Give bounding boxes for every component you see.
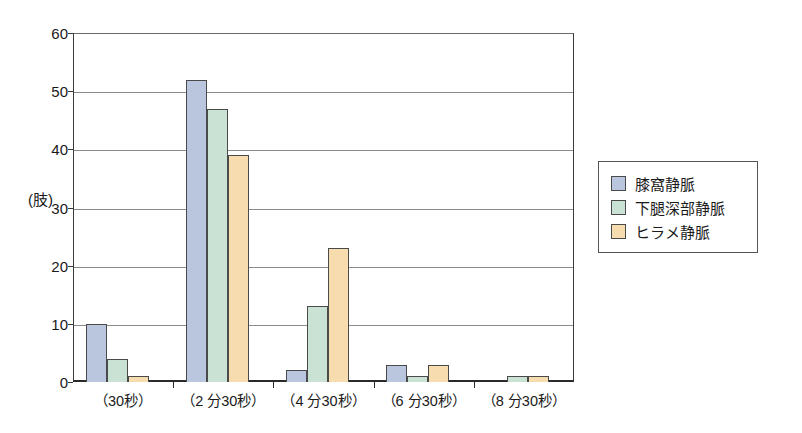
- y-axis-tick-label: 50: [51, 83, 68, 100]
- y-axis-tick-mark: [68, 208, 73, 209]
- bar: [407, 376, 428, 382]
- bar-chart: (肢) 0102030405060 （30秒）（2 分30秒）（4 分30秒）（…: [0, 0, 802, 433]
- bar: [328, 248, 349, 382]
- legend: 膝窩静脈下腿深部静脈ヒラメ静脈: [598, 161, 758, 253]
- x-axis-tick-mark: [474, 382, 475, 388]
- bar: [128, 376, 149, 382]
- legend-item: ヒラメ静脈: [611, 219, 747, 243]
- bar: [307, 306, 328, 382]
- x-axis-tick-mark: [173, 382, 174, 388]
- legend-label: 膝窩静脈: [635, 173, 695, 194]
- legend-swatch: [611, 176, 626, 191]
- legend-item: 膝窩静脈: [611, 171, 747, 195]
- y-axis-ticks: 0102030405060: [40, 33, 68, 382]
- bar: [507, 376, 528, 382]
- bar: [386, 365, 407, 382]
- y-axis-tick-mark: [68, 91, 73, 92]
- y-axis-tick-label: 0: [60, 374, 68, 391]
- legend-item: 下腿深部静脈: [611, 195, 747, 219]
- bar-group: [186, 33, 249, 382]
- bar: [428, 365, 449, 382]
- bar-group: [286, 33, 349, 382]
- y-axis-tick-mark: [68, 149, 73, 150]
- bar-group: [86, 33, 149, 382]
- y-axis-tick-mark: [68, 382, 73, 383]
- y-axis-tick-label: 10: [51, 315, 68, 332]
- y-axis-tick-label: 60: [51, 25, 68, 42]
- y-axis-tick-mark: [68, 324, 73, 325]
- bars-layer: [73, 33, 574, 382]
- bar: [107, 359, 128, 382]
- bar: [228, 155, 249, 382]
- x-axis-tick-label: （2 分30秒）: [181, 389, 265, 410]
- legend-label: 下腿深部静脈: [635, 197, 725, 218]
- y-axis-tick-label: 20: [51, 257, 68, 274]
- bar: [186, 80, 207, 382]
- legend-label: ヒラメ静脈: [635, 221, 710, 242]
- y-axis-tick-mark: [68, 266, 73, 267]
- bar: [86, 324, 107, 382]
- bar: [528, 376, 549, 382]
- x-axis-tick-label: （6 分30秒）: [382, 389, 466, 410]
- bar-group: [386, 33, 449, 382]
- x-axis-tick-label: （30秒）: [94, 389, 152, 410]
- x-axis-tick-mark: [374, 382, 375, 388]
- x-axis-tick-mark: [273, 382, 274, 388]
- y-axis-tick-mark: [68, 33, 73, 34]
- legend-swatch: [611, 200, 626, 215]
- bar: [207, 109, 228, 382]
- legend-swatch: [611, 224, 626, 239]
- bar-group: [486, 33, 549, 382]
- bar: [286, 370, 307, 382]
- y-axis-tick-label: 40: [51, 141, 68, 158]
- x-axis-tick-label: （4 分30秒）: [281, 389, 365, 410]
- x-axis-tick-label: （8 分30秒）: [482, 389, 566, 410]
- y-axis-tick-label: 30: [51, 199, 68, 216]
